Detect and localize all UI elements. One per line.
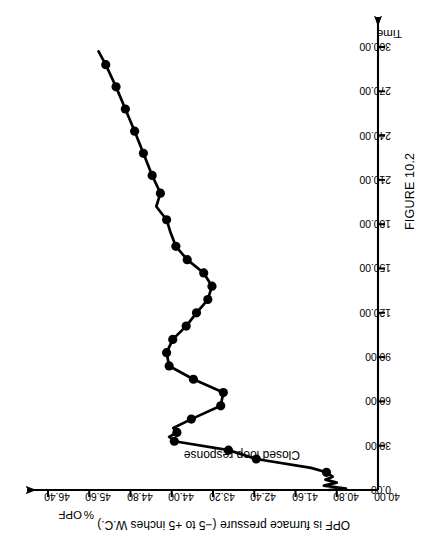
figure-10-2: 40.0040.8041.6042.4043.2044.0044.8045.60… (0, 0, 435, 557)
time-axis-title: Time (377, 28, 402, 40)
value-axis-tick-40.80: 40.80 (333, 492, 359, 503)
time-axis-tick-90.00: 90.00 (365, 352, 391, 363)
value-axis-tick-45.60: 45.60 (85, 492, 111, 503)
value-axis-tick-44.00: 44.00 (168, 492, 194, 503)
value-axis-tick-42.40: 42.40 (250, 492, 276, 503)
value-axis-tick-43.20: 43.20 (209, 492, 235, 503)
time-axis-tick-150.00: 150.00 (359, 263, 391, 274)
series-annotation: Closed loop response (184, 449, 300, 461)
time-axis-tick-180.00: 180.00 (359, 219, 391, 230)
time-axis-tick-120.00: 120.00 (359, 307, 391, 318)
time-axis-tick-210.00: 210.00 (359, 174, 391, 185)
time-axis-tick-60.00: 60.00 (365, 396, 391, 407)
value-axis-units: % (83, 509, 93, 521)
value-axis-tick-44.80: 44.80 (127, 492, 153, 503)
time-axis-tick-240.00: 240.00 (359, 130, 391, 141)
figure-caption: FIGURE 10.2 (404, 153, 417, 230)
chart-title: OPF is furnace pressure (−5 to +5 inches… (97, 519, 350, 531)
label-layer: 40.0040.8041.6042.4043.2044.0044.8045.60… (0, 0, 435, 557)
rotated-plot-stage: 40.0040.8041.6042.4043.2044.0044.8045.60… (0, 0, 435, 557)
time-axis-tick-0.00: 0.00 (371, 485, 391, 496)
time-axis-tick-30.00: 30.00 (365, 440, 391, 451)
time-axis-tick-300.00: 300.00 (359, 42, 391, 53)
time-axis-tick-270.00: 270.00 (359, 86, 391, 97)
value-axis-tick-46.40: 46.40 (44, 492, 70, 503)
value-axis-title: OPF (58, 509, 82, 521)
value-axis-tick-41.60: 41.60 (292, 492, 318, 503)
